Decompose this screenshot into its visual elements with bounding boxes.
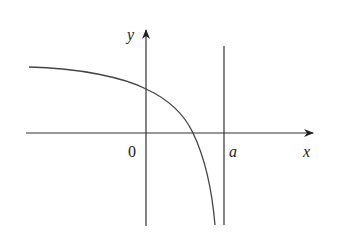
y-axis-label: y (125, 26, 135, 44)
x-axis-label: x (302, 143, 310, 160)
graph-canvas: y 0 a x (0, 0, 337, 234)
function-curve (29, 67, 215, 225)
asymptote-label: a (229, 143, 237, 160)
origin-label: 0 (128, 143, 136, 160)
